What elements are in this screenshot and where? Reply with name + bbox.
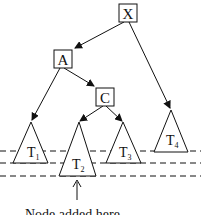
edge-a-t1 <box>32 68 60 120</box>
subtree-t3: T3 <box>106 122 141 163</box>
subtree-t1: T1 <box>13 122 48 163</box>
edge-x-t4 <box>129 22 170 108</box>
subtree-t4: T4 <box>154 110 188 152</box>
tree-diagram: X A C T1 T2 T3 T4 Node added here <box>0 0 201 215</box>
node-c: C <box>96 88 114 106</box>
node-x: X <box>119 4 137 22</box>
edge-c-t3 <box>106 106 122 121</box>
node-x-label: X <box>123 6 134 22</box>
node-c-label: C <box>100 90 110 106</box>
annotation-text: Node added here <box>25 207 120 215</box>
edge-x-a <box>75 22 124 48</box>
edge-a-c <box>64 68 94 86</box>
node-a: A <box>54 50 72 68</box>
edge-c-t2 <box>80 106 103 121</box>
node-a-label: A <box>58 52 69 68</box>
subtree-t2: T2 <box>59 122 96 176</box>
